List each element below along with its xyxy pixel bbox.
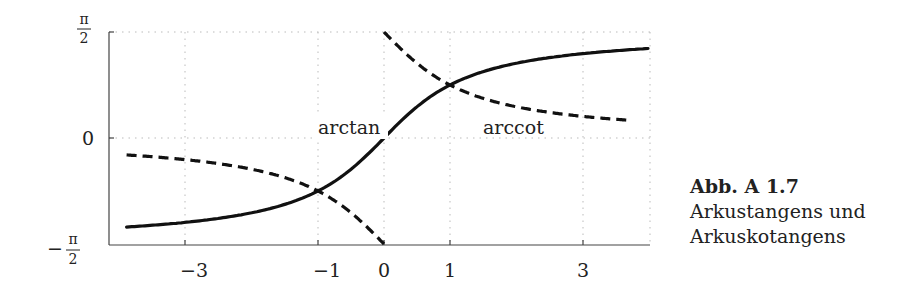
ytick-top-denominator: 2 (80, 30, 89, 46)
xtick-1: 1 (444, 259, 456, 281)
chart-plot: arctan arccot π 2 0 − π 2 −3 −1 0 1 3 (0, 0, 909, 298)
ytick-bottom-sign: − (47, 237, 63, 259)
arctan-label: arctan (318, 116, 380, 138)
ytick-bottom-denominator: 2 (69, 251, 78, 267)
xtick-minus1: −1 (313, 259, 341, 281)
xtick-3: 3 (577, 259, 589, 281)
caption-line-2: Arkuskotangens (690, 224, 866, 249)
caption-title: Abb. A 1.7 (690, 174, 866, 199)
ytick-zero: 0 (82, 127, 94, 149)
arccot-label: arccot (483, 116, 544, 138)
arccot-curve-left (127, 155, 384, 244)
xtick-0: 0 (378, 259, 390, 281)
ytick-bottom-numerator: π (68, 231, 77, 247)
caption-line-1: Arkustangens und (690, 199, 866, 224)
ytick-top-numerator: π (79, 11, 88, 27)
figure-caption: Abb. A 1.7 Arkustangens und Arkuskotange… (690, 174, 866, 249)
xtick-minus3: −3 (180, 259, 208, 281)
arccot-curve-right (384, 32, 632, 120)
